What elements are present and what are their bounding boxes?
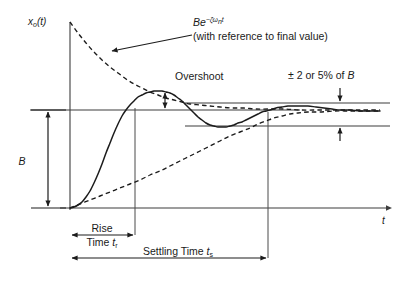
y-axis-label: xo(t) xyxy=(27,16,46,28)
x-axis-arrowhead xyxy=(386,205,392,211)
envelope-formula: Be−ζωnt xyxy=(193,16,225,28)
guide-lines xyxy=(135,108,268,258)
axis-labels: xo(t) t xyxy=(27,16,386,226)
tolerance-label: ± 2 or 5% of B xyxy=(288,69,354,81)
amplitude-dimension: B xyxy=(18,110,66,208)
settling-time-label: Settling Time ts xyxy=(143,245,214,258)
overshoot-dimension: Overshoot xyxy=(165,70,224,108)
x-axis-label: t xyxy=(382,215,386,226)
rise-time-dimension: Rise Time tr xyxy=(72,222,133,249)
rise-time-label-line1: Rise xyxy=(91,222,112,234)
envelope-annotation: Be−ζωnt (with reference to final value) xyxy=(112,16,328,51)
envelope-leader-line xyxy=(112,35,192,51)
tolerance-dimension: ± 2 or 5% of B xyxy=(288,69,354,141)
overshoot-label: Overshoot xyxy=(175,70,224,82)
axes-group xyxy=(60,22,392,211)
rise-time-label-line2: Time tr xyxy=(86,236,118,249)
amplitude-label: B xyxy=(18,155,25,167)
step-response-diagram: B Overshoot ± 2 or 5% of B Be−ζωnt (with… xyxy=(0,0,404,284)
step-response-curve xyxy=(70,91,380,208)
figure-root: B Overshoot ± 2 or 5% of B Be−ζωnt (with… xyxy=(0,0,404,284)
envelope-note: (with reference to final value) xyxy=(193,30,328,42)
